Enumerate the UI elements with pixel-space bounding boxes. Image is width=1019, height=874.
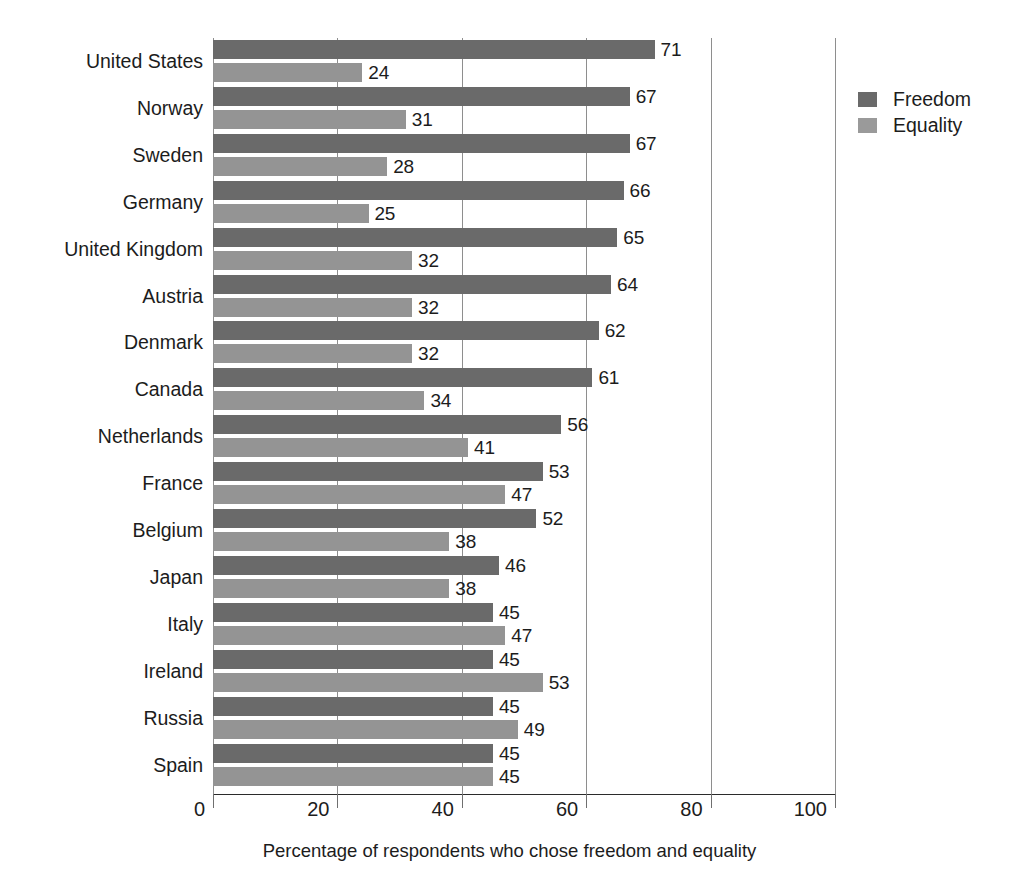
category-label-norway: Norway xyxy=(0,98,203,118)
category-label-sweden: Sweden xyxy=(0,145,203,165)
bar-value-freedom-spain: 45 xyxy=(499,744,520,763)
category-label-united-kingdom: United Kingdom xyxy=(0,239,203,259)
x-axis-line xyxy=(213,794,836,795)
bar-value-equality-germany: 25 xyxy=(375,204,396,223)
legend-label-equality: Equality xyxy=(893,114,962,136)
bar-freedom-norway xyxy=(213,87,630,106)
legend-swatch-equality-icon xyxy=(858,118,877,133)
bar-value-equality-ireland: 53 xyxy=(549,673,570,692)
category-label-netherlands: Netherlands xyxy=(0,426,203,446)
chart-legend: Freedom Equality xyxy=(858,86,971,138)
bar-freedom-united-states xyxy=(213,40,655,59)
bar-equality-russia xyxy=(213,720,518,739)
bar-equality-netherlands xyxy=(213,438,468,457)
bar-value-freedom-austria: 64 xyxy=(617,275,638,294)
bar-freedom-canada xyxy=(213,368,592,387)
gridline-100 xyxy=(835,38,836,794)
x-axis-tick-20 xyxy=(337,794,338,808)
bar-equality-italy xyxy=(213,626,505,645)
bar-freedom-netherlands xyxy=(213,415,561,434)
bar-value-equality-spain: 45 xyxy=(499,767,520,786)
bar-equality-belgium xyxy=(213,532,449,551)
category-label-spain: Spain xyxy=(0,755,203,775)
category-label-austria: Austria xyxy=(0,286,203,306)
legend-item-equality[interactable]: Equality xyxy=(858,112,971,138)
bar-freedom-japan xyxy=(213,556,499,575)
bar-value-equality-france: 47 xyxy=(511,485,532,504)
bar-value-equality-denmark: 32 xyxy=(418,344,439,363)
bar-value-freedom-italy: 45 xyxy=(499,603,520,622)
bar-equality-ireland xyxy=(213,673,543,692)
bar-value-freedom-canada: 61 xyxy=(598,368,619,387)
bar-value-equality-italy: 47 xyxy=(511,626,532,645)
legend-label-freedom: Freedom xyxy=(893,88,971,110)
bar-value-equality-japan: 38 xyxy=(455,579,476,598)
bar-freedom-russia xyxy=(213,697,493,716)
bar-freedom-belgium xyxy=(213,509,536,528)
bar-value-equality-austria: 32 xyxy=(418,298,439,317)
category-label-belgium: Belgium xyxy=(0,520,203,540)
bar-value-freedom-ireland: 45 xyxy=(499,650,520,669)
bar-value-freedom-norway: 67 xyxy=(636,87,657,106)
bar-value-equality-norway: 31 xyxy=(412,110,433,129)
bar-equality-germany xyxy=(213,204,369,223)
bar-value-equality-russia: 49 xyxy=(524,720,545,739)
category-label-japan: Japan xyxy=(0,567,203,587)
x-tick-label-20: 20 xyxy=(277,797,329,821)
x-axis-tick-0 xyxy=(213,794,214,808)
bar-equality-united-kingdom xyxy=(213,251,412,270)
x-tick-label-100: 100 xyxy=(775,797,827,821)
bar-value-equality-united-states: 24 xyxy=(368,63,389,82)
bar-freedom-denmark xyxy=(213,321,599,340)
bar-equality-united-states xyxy=(213,63,362,82)
gridline-80 xyxy=(711,38,712,794)
bar-equality-canada xyxy=(213,391,424,410)
bar-equality-norway xyxy=(213,110,406,129)
bar-value-freedom-sweden: 67 xyxy=(636,134,657,153)
bar-value-freedom-denmark: 62 xyxy=(605,321,626,340)
bar-value-freedom-russia: 45 xyxy=(499,697,520,716)
bar-freedom-sweden xyxy=(213,134,630,153)
category-label-russia: Russia xyxy=(0,708,203,728)
bar-equality-denmark xyxy=(213,344,412,363)
category-label-germany: Germany xyxy=(0,192,203,212)
category-label-france: France xyxy=(0,473,203,493)
category-label-united-states: United States xyxy=(0,51,203,71)
bar-equality-japan xyxy=(213,579,449,598)
horizontal-bar-chart: United StatesNorwaySwedenGermanyUnited K… xyxy=(0,0,1019,874)
x-axis-tick-40 xyxy=(462,794,463,808)
bar-value-equality-belgium: 38 xyxy=(455,532,476,551)
x-tick-label-60: 60 xyxy=(526,797,578,821)
category-label-canada: Canada xyxy=(0,379,203,399)
bar-value-equality-netherlands: 41 xyxy=(474,438,495,457)
category-label-ireland: Ireland xyxy=(0,661,203,681)
bar-value-freedom-japan: 46 xyxy=(505,556,526,575)
category-label-denmark: Denmark xyxy=(0,332,203,352)
bar-freedom-united-kingdom xyxy=(213,228,617,247)
x-tick-label-0: 0 xyxy=(153,797,205,821)
bar-value-freedom-united-kingdom: 65 xyxy=(623,228,644,247)
legend-swatch-freedom-icon xyxy=(858,92,877,107)
bar-freedom-germany xyxy=(213,181,624,200)
x-axis-title: Percentage of respondents who chose free… xyxy=(0,840,1019,862)
bar-value-freedom-united-states: 71 xyxy=(661,40,682,59)
bar-equality-france xyxy=(213,485,505,504)
bar-freedom-italy xyxy=(213,603,493,622)
x-axis-tick-80 xyxy=(711,794,712,808)
bar-freedom-france xyxy=(213,462,543,481)
bar-value-equality-united-kingdom: 32 xyxy=(418,251,439,270)
bar-value-equality-canada: 34 xyxy=(430,391,451,410)
x-axis-tick-100 xyxy=(835,794,836,808)
bar-freedom-spain xyxy=(213,744,493,763)
bar-freedom-ireland xyxy=(213,650,493,669)
bar-value-freedom-germany: 66 xyxy=(630,181,651,200)
category-label-italy: Italy xyxy=(0,614,203,634)
bar-equality-spain xyxy=(213,767,493,786)
bar-equality-sweden xyxy=(213,157,387,176)
legend-item-freedom[interactable]: Freedom xyxy=(858,86,971,112)
x-tick-label-40: 40 xyxy=(402,797,454,821)
bar-value-freedom-france: 53 xyxy=(549,462,570,481)
bar-value-equality-sweden: 28 xyxy=(393,157,414,176)
bar-value-freedom-belgium: 52 xyxy=(542,509,563,528)
bar-freedom-austria xyxy=(213,275,611,294)
